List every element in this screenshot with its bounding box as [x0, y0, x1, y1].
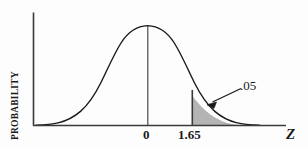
- x-tick-label-critical-value: 1.65: [178, 128, 201, 141]
- x-axis-title: Z: [286, 127, 295, 142]
- annotation-arrow: [207, 89, 241, 109]
- tail-area-label: .05: [240, 79, 256, 92]
- y-axis-title: PROBABILITY: [11, 0, 27, 140]
- plot-canvas: [0, 0, 308, 150]
- x-tick-label-zero: 0: [143, 128, 150, 141]
- shaded-tail-area: [192, 96, 251, 126]
- normal-distribution-figure: PROBABILITY 0 1.65 Z .05: [0, 0, 308, 150]
